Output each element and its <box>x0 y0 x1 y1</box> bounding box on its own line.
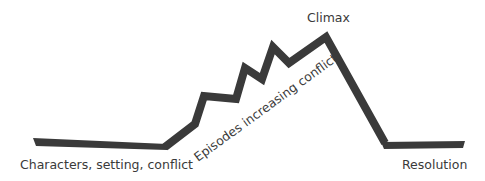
resolution-label: Resolution <box>402 157 467 172</box>
exposition-segment <box>33 138 167 150</box>
climax-label: Climax <box>307 10 350 25</box>
plot-diagram: Characters, setting, conflict Climax Res… <box>0 0 485 181</box>
plot-structure-diagram: Characters, setting, conflict Climax Res… <box>0 0 485 181</box>
resolution-segment <box>381 141 465 149</box>
exposition-label: Characters, setting, conflict <box>20 157 193 172</box>
